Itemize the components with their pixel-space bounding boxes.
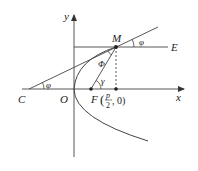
label-Phi-M: Φ bbox=[98, 59, 105, 69]
label-focus-p: p bbox=[105, 91, 110, 100]
parabola-curve bbox=[74, 47, 148, 141]
point-F bbox=[89, 87, 93, 91]
label-O: O bbox=[60, 93, 68, 105]
label-focus-open-paren: ( bbox=[100, 92, 104, 107]
label-focus-2: 2 bbox=[106, 101, 110, 110]
label-E: E bbox=[170, 41, 178, 53]
parabola-diagram: y x C O M E F ( p 2 , 0) φ φ Φ γ bbox=[0, 0, 198, 171]
label-phi-M: φ bbox=[139, 37, 144, 47]
diagram-canvas: y x C O M E F ( p 2 , 0) φ φ Φ γ bbox=[0, 0, 198, 171]
label-gamma-F: γ bbox=[101, 76, 105, 86]
point-foot bbox=[114, 87, 118, 91]
point-M bbox=[114, 45, 118, 49]
label-y: y bbox=[63, 10, 69, 22]
label-phi-C: φ bbox=[46, 80, 51, 90]
label-F: F bbox=[90, 93, 98, 105]
label-M: M bbox=[111, 32, 122, 44]
angle-arc-C bbox=[43, 83, 45, 90]
label-C: C bbox=[18, 93, 26, 105]
angle-arc-M-right bbox=[132, 39, 134, 47]
label-focus-rest: , 0) bbox=[112, 95, 125, 107]
angle-arc-M-inner bbox=[108, 51, 112, 55]
label-x: x bbox=[175, 91, 181, 103]
